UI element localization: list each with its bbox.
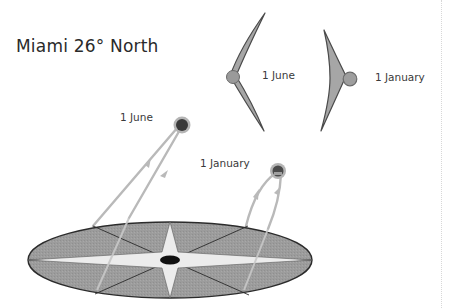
sun-june-icon [174,117,191,134]
compass-disc [28,222,312,298]
shadow-january-label: 1 January [375,71,425,83]
shadow-june-label: 1 June [262,69,295,81]
sun-path-june [93,127,181,226]
sun-path-january [246,173,281,229]
sun-path-diagram: Miami 26° North [0,0,452,308]
sun-january-label: 1 January [200,157,250,169]
diagram-graphics [0,0,452,308]
shadow-june-icon [227,13,266,131]
sun-june-label: 1 June [120,111,153,123]
shadow-january-icon [321,30,357,131]
sun-january-icon [270,163,286,179]
compass-center [160,256,180,265]
page-edge-divider [441,0,442,308]
